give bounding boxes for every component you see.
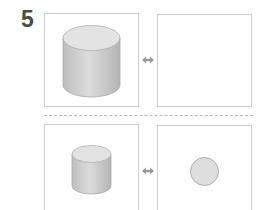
- circle-icon: [0, 0, 267, 210]
